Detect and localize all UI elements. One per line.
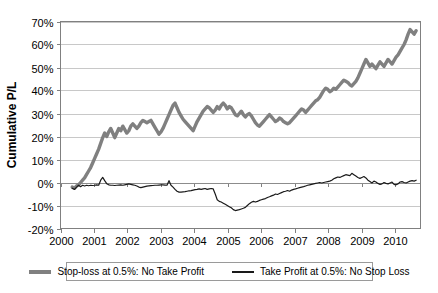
y-axis-title-text: Cumulative P/L — [5, 82, 19, 169]
series-line-take-profit — [72, 173, 416, 210]
y-tick-label: -10% — [28, 201, 54, 213]
x-tick-label: 2005 — [216, 235, 240, 247]
x-tick-label: 2003 — [149, 235, 173, 247]
y-tick-label: 40% — [31, 85, 53, 97]
x-tick-label: 2010 — [383, 235, 407, 247]
series-line-stop-loss — [72, 30, 416, 189]
x-tick-label: 2001 — [82, 235, 106, 247]
y-axis-ticks: -20%-10%0%10%20%30%40%50%60%70% — [28, 17, 61, 236]
legend-label-stop-loss: Stop-loss at 0.5%: No Take Profit — [57, 267, 204, 277]
x-tick-label: 2000 — [49, 235, 73, 247]
x-tick-label: 2002 — [115, 235, 139, 247]
legend-swatch-take-profit — [232, 271, 254, 273]
legend-item-stop-loss: Stop-loss at 0.5%: No Take Profit — [29, 267, 204, 277]
x-tick-label: 2006 — [249, 235, 273, 247]
x-tick-label: 2008 — [316, 235, 340, 247]
y-tick-label: 20% — [31, 132, 53, 144]
y-axis-title: Cumulative P/L — [5, 82, 19, 169]
x-tick-label: 2007 — [283, 235, 307, 247]
y-tick-label: 0% — [38, 178, 54, 190]
plot-border — [61, 22, 421, 229]
plot-frame — [61, 22, 421, 229]
x-tick-label: 2009 — [350, 235, 374, 247]
x-tick-label: 2004 — [182, 235, 206, 247]
chart-container: -20%-10%0%10%20%30%40%50%60%70% 20002001… — [0, 0, 438, 293]
x-axis-ticks: 2000200120022003200420052006200720082009… — [49, 184, 407, 247]
chart-legend: Stop-loss at 0.5%: No Take Profit Take P… — [66, 262, 373, 281]
y-tick-label: 70% — [31, 17, 53, 29]
legend-label-take-profit: Take Profit at 0.5%: No Stop Loss — [260, 267, 410, 277]
y-tick-label: 60% — [31, 39, 53, 51]
y-tick-label: 10% — [31, 155, 53, 167]
y-tick-label: 50% — [31, 63, 53, 75]
chart-plot-area: -20%-10%0%10%20%30%40%50%60%70% 20002001… — [0, 0, 438, 293]
legend-swatch-stop-loss — [29, 270, 51, 274]
legend-item-take-profit: Take Profit at 0.5%: No Stop Loss — [232, 267, 410, 277]
y-tick-label: 30% — [31, 109, 53, 121]
